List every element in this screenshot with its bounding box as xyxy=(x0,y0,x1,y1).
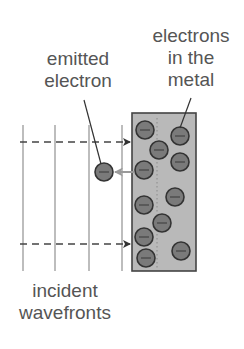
label-line: metal xyxy=(145,69,237,91)
label-line: electron xyxy=(34,70,122,92)
electron xyxy=(135,228,153,246)
electron xyxy=(153,214,171,232)
label-line: incident xyxy=(10,280,120,302)
electron xyxy=(136,121,154,139)
electron xyxy=(166,188,184,206)
incident-rays xyxy=(20,142,130,244)
leader-line-emitted-electron xyxy=(84,100,101,164)
electron xyxy=(137,249,155,267)
electron xyxy=(135,196,153,214)
electron xyxy=(135,161,153,179)
label-incident-wavefronts: incident wavefronts xyxy=(10,280,120,324)
incident-wavefronts xyxy=(23,125,122,271)
electron xyxy=(171,153,189,171)
label-line: emitted xyxy=(34,48,122,70)
electron xyxy=(150,141,168,159)
emitted-electron xyxy=(95,163,113,181)
electron xyxy=(172,242,190,260)
label-electrons-in-metal: electrons in the metal xyxy=(145,25,237,91)
label-emitted-electron: emitted electron xyxy=(34,48,122,92)
electron xyxy=(171,127,189,145)
label-line: wavefronts xyxy=(10,302,120,324)
label-line: electrons xyxy=(145,25,237,47)
label-line: in the xyxy=(145,47,237,69)
